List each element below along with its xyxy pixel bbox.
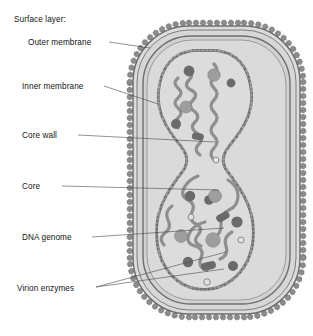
spike-knob: [300, 247, 306, 253]
spike-knob: [300, 86, 306, 92]
spike-knob: [300, 191, 306, 197]
label-core: Core: [22, 182, 40, 191]
spike-knob: [300, 100, 306, 106]
spike-knob: [300, 219, 306, 225]
spike-knob: [129, 65, 134, 71]
spike-knob: [300, 170, 306, 176]
spike-knob: [234, 314, 240, 320]
spike-knob: [300, 121, 306, 127]
spike-knob: [179, 314, 185, 320]
spike-knob: [300, 205, 306, 211]
spike-knob: [127, 248, 133, 254]
spike-knob: [300, 149, 306, 155]
virion-svg: Surface layer: Outer membrane Inner memb…: [0, 0, 313, 336]
spike-knob: [300, 177, 306, 183]
spike-knob: [127, 143, 133, 149]
spike-knob: [180, 20, 186, 26]
spike-knob: [299, 269, 304, 275]
spike-knob: [199, 314, 205, 320]
spike-knob: [206, 314, 212, 320]
label-group: Surface layer: Outer membrane Inner memb…: [14, 15, 92, 293]
spike-knob: [127, 171, 133, 177]
spike-knob: [127, 136, 133, 142]
spike-knob: [127, 255, 133, 261]
spike-knob: [127, 178, 133, 184]
spike-knob: [127, 192, 133, 198]
spike-knob: [300, 128, 306, 134]
spike-knob: [127, 108, 133, 114]
virion-diagram: Surface layer: Outer membrane Inner memb…: [0, 0, 313, 336]
spike-knob: [127, 115, 133, 121]
label-inner-membrane: Inner membrane: [22, 82, 84, 91]
spike-knob: [186, 314, 192, 320]
spike-knob: [127, 234, 133, 240]
spike-knob: [300, 233, 306, 239]
spike-knob: [192, 314, 198, 320]
spike-knob: [241, 314, 247, 320]
spike-knob: [127, 227, 133, 233]
spike-knob: [255, 22, 261, 27]
spike-knob: [127, 122, 133, 128]
spike-knob: [127, 261, 133, 267]
label-surface-layer: Surface layer:: [14, 15, 66, 24]
spike-knob: [127, 213, 133, 219]
spike-knob: [300, 198, 306, 204]
spike-knob: [127, 87, 133, 93]
spike-knob: [300, 184, 306, 190]
label-virion-enzymes: Virion enzymes: [17, 284, 74, 293]
spike-knob: [228, 20, 234, 26]
spike-knob: [127, 199, 133, 205]
spike-knob: [300, 93, 306, 99]
spike-knob: [127, 101, 133, 107]
spike-knob: [300, 142, 306, 148]
spike-knob: [300, 156, 306, 162]
spike-knob: [300, 226, 306, 232]
spike-knob: [300, 135, 306, 141]
spike-knob: [300, 262, 306, 268]
spike-knob: [247, 314, 253, 320]
spike-knob: [300, 212, 306, 218]
spike-knob: [193, 20, 199, 26]
spike-knob: [221, 20, 227, 26]
spike-knob: [300, 73, 306, 79]
spike-knob: [241, 20, 247, 26]
spike-knob: [127, 150, 133, 156]
spike-knob: [235, 20, 241, 26]
spike-knob: [214, 20, 220, 26]
spike-knob: [220, 314, 226, 320]
spike-knob: [127, 206, 133, 212]
spike-knob: [127, 164, 133, 170]
spike-knob: [128, 72, 134, 78]
label-dna-genome: DNA genome: [22, 233, 72, 242]
spike-knob: [127, 129, 133, 135]
spike-knob: [127, 241, 133, 247]
spike-knob: [207, 20, 213, 26]
spike-knob: [300, 79, 306, 85]
spike-knob: [213, 314, 219, 320]
spike-knob: [186, 20, 192, 26]
spike-knob: [300, 114, 306, 120]
spike-knob: [300, 240, 306, 246]
spike-knob: [248, 21, 254, 27]
spike-knob: [200, 20, 206, 26]
label-outer-membrane: Outer membrane: [28, 38, 92, 47]
spike-knob: [127, 220, 133, 226]
spike-knob: [300, 107, 306, 113]
spike-knob: [227, 314, 233, 320]
spike-knob: [127, 157, 133, 163]
label-core-wall: Core wall: [22, 131, 57, 140]
spike-knob: [300, 163, 306, 169]
spike-knob: [172, 313, 178, 318]
